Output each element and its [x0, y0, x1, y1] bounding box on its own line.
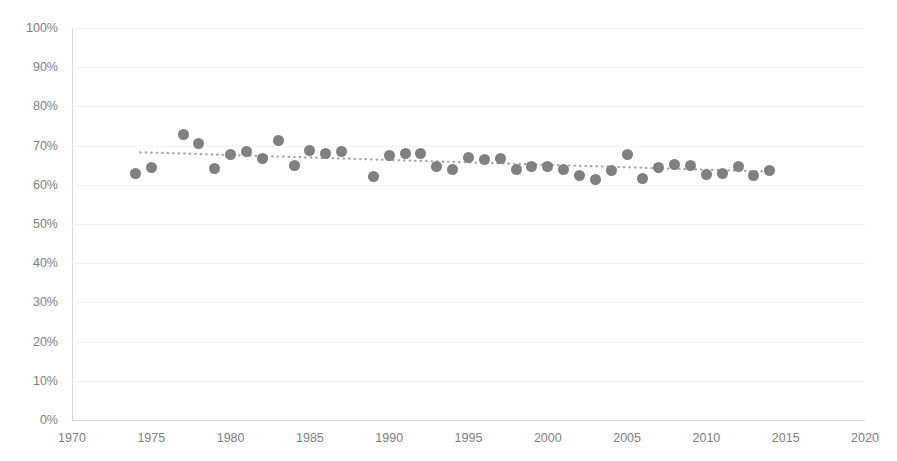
- plot-area: [72, 28, 865, 420]
- data-point: [685, 160, 696, 171]
- y-tick-label: 10%: [0, 375, 58, 388]
- data-point: [622, 149, 633, 160]
- data-point: [574, 170, 585, 181]
- data-point: [146, 162, 157, 173]
- data-point: [273, 135, 284, 146]
- data-point: [511, 164, 522, 175]
- y-tick-label: 0%: [0, 414, 58, 427]
- data-point: [479, 154, 490, 165]
- x-tick-label: 2000: [513, 432, 583, 445]
- x-tick-label: 1985: [275, 432, 345, 445]
- x-tick-label: 1995: [434, 432, 504, 445]
- y-tick-label: 30%: [0, 296, 58, 309]
- x-tick-label: 1975: [116, 432, 186, 445]
- data-point: [209, 163, 220, 174]
- data-point: [558, 164, 569, 175]
- x-tick-label: 1970: [37, 432, 107, 445]
- y-tick-label: 20%: [0, 336, 58, 349]
- y-tick-label: 50%: [0, 218, 58, 231]
- y-tick-label: 40%: [0, 257, 58, 270]
- x-tick-label: 2005: [592, 432, 662, 445]
- data-point: [225, 149, 236, 160]
- data-point: [368, 171, 379, 182]
- y-tick-label: 100%: [0, 22, 58, 35]
- data-point: [590, 174, 601, 185]
- data-point: [717, 168, 728, 179]
- gridline-0%: [72, 420, 865, 421]
- y-tick-label: 60%: [0, 179, 58, 192]
- scatter-chart: 100%90%80%70%60%50%40%30%20%10%0% 197019…: [0, 0, 897, 461]
- data-point: [178, 129, 189, 140]
- data-point: [289, 160, 300, 171]
- data-point: [606, 165, 617, 176]
- data-point: [733, 161, 744, 172]
- data-point: [495, 153, 506, 164]
- trendline: [72, 28, 865, 420]
- x-tick-label: 2020: [830, 432, 897, 445]
- data-point: [463, 152, 474, 163]
- x-tick-label: 2015: [751, 432, 821, 445]
- x-tick-label: 1980: [196, 432, 266, 445]
- y-tick-label: 90%: [0, 61, 58, 74]
- x-tick-label: 2010: [671, 432, 741, 445]
- x-tick-label: 1990: [354, 432, 424, 445]
- data-point: [669, 159, 680, 170]
- data-point: [336, 146, 347, 157]
- data-point: [701, 169, 712, 180]
- data-point: [400, 148, 411, 159]
- y-tick-label: 80%: [0, 100, 58, 113]
- y-tick-label: 70%: [0, 140, 58, 153]
- data-point: [384, 150, 395, 161]
